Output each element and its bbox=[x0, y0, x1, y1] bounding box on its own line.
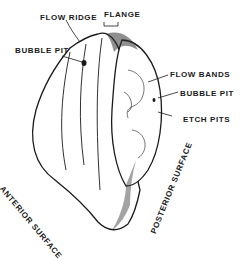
leader-flow-ridge bbox=[66, 20, 80, 42]
bubble-pit-left bbox=[82, 60, 87, 66]
label-bubble-pit-left: BUBBLE PIT bbox=[15, 47, 69, 55]
posterior-face bbox=[112, 40, 162, 186]
label-etch-pits: ETCH PITS bbox=[183, 116, 230, 124]
label-flow-ridge: FLOW RIDGE bbox=[40, 14, 97, 22]
label-bubble-pit-right: BUBBLE PIT bbox=[180, 90, 234, 98]
label-flow-bands: FLOW BANDS bbox=[170, 71, 230, 79]
label-flange: FLANGE bbox=[104, 11, 141, 19]
flange-brace bbox=[104, 22, 118, 26]
bubble-pit-right bbox=[153, 98, 156, 102]
